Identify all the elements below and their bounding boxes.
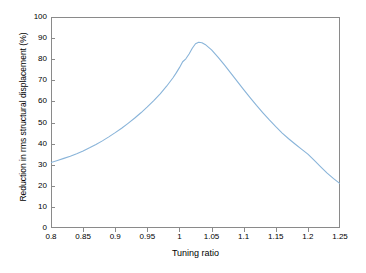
y-axis-title-wrapper: Reduction in rms structural displacement… bbox=[6, 0, 22, 240]
x-axis-tick-mark bbox=[244, 228, 245, 232]
x-axis-tick-mark bbox=[179, 228, 180, 232]
line-chart-canvas bbox=[51, 17, 340, 228]
x-axis-tick-label: 1.25 bbox=[320, 232, 360, 241]
x-axis-tick-mark bbox=[276, 228, 277, 232]
y-axis-tick-mark bbox=[51, 186, 55, 187]
x-axis-tick-mark bbox=[212, 228, 213, 232]
x-axis-tick-mark bbox=[115, 228, 116, 232]
y-axis-tick-mark bbox=[51, 165, 55, 166]
x-axis-title: Tuning ratio bbox=[51, 248, 340, 258]
y-axis-tick-label: 0 bbox=[21, 224, 47, 232]
y-axis-tick-mark bbox=[51, 59, 55, 60]
y-axis-tick-mark bbox=[51, 101, 55, 102]
y-axis-title: Reduction in rms structural displacement… bbox=[18, 17, 28, 217]
x-axis-tick-mark bbox=[83, 228, 84, 232]
x-axis-tick-labels: 0.80.850.90.9511.051.11.151.21.25 bbox=[0, 232, 366, 244]
y-axis-tick-mark bbox=[51, 80, 55, 81]
y-axis-tick-mark bbox=[51, 123, 55, 124]
y-axis-tick-mark bbox=[51, 207, 55, 208]
x-axis-tick-mark bbox=[308, 228, 309, 232]
x-axis-tick-mark bbox=[147, 228, 148, 232]
series-line-reduction bbox=[51, 42, 340, 183]
chart-screenshot: 0102030405060708090100 0.80.850.90.9511.… bbox=[0, 0, 366, 273]
y-axis-tick-mark bbox=[51, 38, 55, 39]
y-axis-tick-mark bbox=[51, 144, 55, 145]
